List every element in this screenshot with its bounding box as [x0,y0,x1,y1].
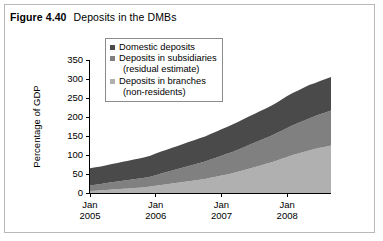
legend-item-subsidiaries: Deposits in subsidiaries [110,53,217,64]
legend-sublabel-branches: (non-residents) [110,87,217,98]
legend-label: Deposits in subsidiaries [119,53,217,64]
y-tick-label: 150 [67,130,83,141]
y-tick-label: 300 [67,73,83,84]
chart-legend: Domestic deposits Deposits in subsidiari… [105,38,223,102]
y-tick-label: 100 [67,149,83,160]
legend-swatch-icon [110,79,115,84]
legend-item-domestic-deposits: Domestic deposits [110,42,217,53]
chart-svg: 050100150200250300350Percentage of GDPJa… [0,0,383,241]
chart-plot-area: 050100150200250300350Percentage of GDPJa… [0,0,383,241]
legend-sublabel-subsidiaries: (residual estimate) [110,64,217,75]
legend-swatch-icon [110,45,115,50]
x-tick-label-month: Jan [214,199,229,210]
y-tick-label: 50 [72,168,83,179]
legend-swatch-icon [110,56,115,61]
x-tick-label-month: Jan [148,199,163,210]
y-tick-label: 200 [67,111,83,122]
x-tick-label-year: 2005 [79,210,100,221]
x-tick-label-month: Jan [82,199,97,210]
x-tick-label-month: Jan [280,199,295,210]
y-tick-label: 0 [78,187,83,198]
legend-item-branches: Deposits in branches [110,76,217,87]
x-tick-label-year: 2006 [145,210,166,221]
legend-label: Deposits in branches [119,76,206,87]
y-tick-label: 250 [67,92,83,103]
x-tick-label-year: 2007 [211,210,232,221]
y-tick-label: 350 [67,54,83,65]
y-axis-title: Percentage of GDP [31,85,42,167]
legend-label: Domestic deposits [119,42,195,53]
x-tick-label-year: 2008 [277,210,298,221]
